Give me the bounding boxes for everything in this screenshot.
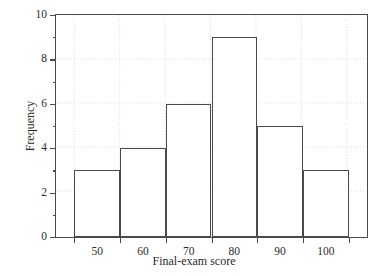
- histogram-bar: [120, 148, 166, 237]
- x-axis-tick: [74, 237, 75, 243]
- y-axis-minor-tick: [53, 37, 57, 38]
- histogram-bar: [303, 170, 349, 237]
- x-axis-tick: [120, 237, 121, 243]
- y-axis-tick-label: 0: [41, 231, 47, 243]
- x-axis-tick: [303, 237, 304, 243]
- y-axis-tick: [50, 193, 56, 194]
- y-axis-tick-label: 6: [41, 98, 47, 110]
- y-axis-tick-label: 2: [41, 187, 47, 199]
- y-axis-minor-tick: [53, 126, 57, 127]
- histogram-bar: [74, 170, 120, 237]
- x-axis-tick: [257, 237, 258, 243]
- x-axis-tick: [349, 237, 350, 243]
- y-axis-tick-label: 10: [36, 9, 48, 21]
- x-axis-tick: [212, 237, 213, 243]
- histogram-bar: [166, 104, 212, 237]
- y-axis-minor-tick: [53, 170, 57, 171]
- histogram-figure: 02468105060708090100 Final-exam score Fr…: [0, 0, 388, 277]
- y-axis-tick: [50, 15, 56, 16]
- y-axis-tick-label: 8: [41, 54, 47, 66]
- y-axis-tick: [50, 237, 56, 238]
- y-axis-minor-tick: [53, 82, 57, 83]
- histogram-bar: [212, 37, 258, 237]
- y-axis-tick: [50, 148, 56, 149]
- plot-area: 02468105060708090100: [55, 14, 368, 238]
- y-axis-tick-label: 4: [41, 142, 47, 154]
- y-axis-tick: [50, 104, 56, 105]
- y-axis-minor-tick: [53, 215, 57, 216]
- histogram-bar: [257, 126, 303, 237]
- x-axis-tick: [166, 237, 167, 243]
- bars-layer: [56, 15, 367, 237]
- x-axis-title: Final-exam score: [0, 254, 388, 269]
- y-axis-title: Frequency: [23, 101, 38, 152]
- y-axis-tick: [50, 59, 56, 60]
